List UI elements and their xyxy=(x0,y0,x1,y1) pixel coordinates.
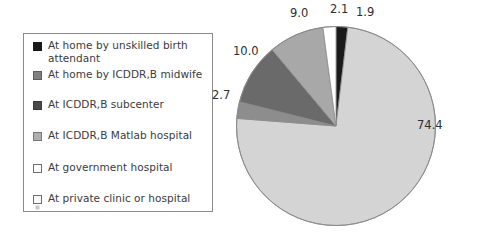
legend-swatch-icon xyxy=(33,101,42,110)
legend-swatch-icon xyxy=(33,195,42,204)
legend-item-icddrb-matlab-hospital[interactable]: At ICDDR,B Matlab hospital xyxy=(33,129,208,142)
chart-legend: At home by unskilled birth attendant At … xyxy=(23,33,213,212)
legend-item-list: At home by unskilled birth attendant At … xyxy=(33,39,208,208)
legend-item-icddrb-subcenter[interactable]: At ICDDR,B subcenter xyxy=(33,98,208,111)
pie-chart-figure: At home by unskilled birth attendant At … xyxy=(0,0,484,234)
legend-item-label: At home by unskilled birth attendant xyxy=(48,39,188,64)
pie-slice-group xyxy=(236,26,435,225)
legend-item-icddrb-midwife[interactable]: At home by ICDDR,B midwife xyxy=(33,68,208,81)
legend-item-label: At ICDDR,B Matlab hospital xyxy=(48,129,192,142)
legend-item-private-clinic-or-hospital[interactable]: At private clinic or hospital xyxy=(33,192,208,205)
pie-value-label-74-4: 74.4 xyxy=(417,118,443,132)
legend-swatch-icon xyxy=(33,42,42,51)
pie-value-label-2-7: 2.7 xyxy=(212,88,230,102)
legend-item-label: At home by ICDDR,B midwife xyxy=(48,68,202,81)
legend-item-government-hospital[interactable]: At government hospital xyxy=(33,161,208,174)
pie-value-label-1-9: 1.9 xyxy=(356,5,374,19)
hatch-pattern-icon xyxy=(34,204,41,211)
legend-swatch-icon xyxy=(33,132,42,141)
legend-item-unskilled-birth-attendant[interactable]: At home by unskilled birth attendant xyxy=(33,39,208,64)
legend-swatch-icon xyxy=(33,71,42,80)
pie-value-label-9: 9.0 xyxy=(290,6,308,20)
legend-item-label: At private clinic or hospital xyxy=(48,192,190,205)
legend-item-label: At ICDDR,B subcenter xyxy=(48,98,164,111)
legend-swatch-icon xyxy=(33,164,42,173)
pie-svg xyxy=(236,26,436,226)
pie-value-label-10: 10.0 xyxy=(233,44,259,58)
pie-value-label-2-1: 2.1 xyxy=(330,2,348,16)
pie-graphic xyxy=(236,26,436,226)
legend-item-label: At government hospital xyxy=(48,161,173,174)
